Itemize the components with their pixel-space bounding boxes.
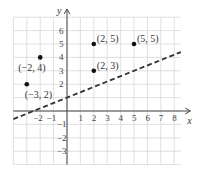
point-label: (2, 3) [97, 60, 119, 72]
point-label: (−3, 2) [25, 89, 52, 101]
y-axis-label: y [56, 5, 62, 16]
x-tick-label: −2 [33, 113, 43, 123]
x-tick-label: 1 [78, 113, 83, 123]
x-tick-label: 2 [92, 113, 97, 123]
data-point [132, 42, 137, 47]
scatter-plot: xy−2−11234567865432−1−2−3(−3, 2)(−2, 4)(… [0, 0, 207, 169]
y-tick-label: −1 [57, 119, 67, 129]
data-point [25, 82, 30, 87]
point-label: (−2, 4) [18, 62, 45, 74]
x-tick-label: 6 [145, 113, 150, 123]
data-point [92, 69, 97, 74]
y-tick-label: 6 [59, 26, 64, 36]
y-tick-label: 2 [59, 79, 64, 89]
y-tick-label: −3 [57, 146, 67, 156]
y-tick-label: 5 [59, 39, 64, 49]
data-point [92, 42, 97, 47]
x-tick-label: −1 [47, 113, 57, 123]
x-tick-label: 8 [172, 113, 177, 123]
point-label: (5, 5) [137, 33, 159, 45]
y-tick-label: −2 [57, 133, 67, 143]
x-tick-label: 5 [132, 113, 137, 123]
y-tick-label: 4 [59, 52, 64, 62]
point-label: (2, 5) [97, 33, 119, 45]
x-tick-label: 4 [119, 113, 124, 123]
y-tick-label: 3 [59, 66, 64, 76]
x-axis-label: x [186, 115, 192, 126]
x-tick-label: 7 [159, 113, 164, 123]
x-tick-label: 3 [105, 113, 110, 123]
data-point [38, 55, 43, 60]
